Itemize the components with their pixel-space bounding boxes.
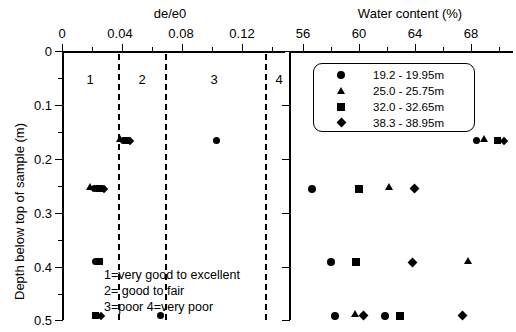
data-point: [327, 258, 335, 266]
right-xminortick-1: [331, 47, 332, 52]
legend-label-3: 38.3 - 38.95m: [373, 117, 444, 129]
right-xtick-3: 68: [457, 26, 485, 41]
right-ytick-mark-3: [282, 213, 290, 214]
zone-label-2: 2: [134, 72, 150, 87]
left-yminortick-2: [58, 186, 63, 187]
right-ytick-mark-4: [282, 267, 290, 268]
left-ytick-label-0: 0: [14, 44, 52, 59]
legend-marker-circle: [337, 71, 345, 79]
left-ytick-mark-0: [55, 51, 63, 52]
left-x-axis: [62, 51, 285, 53]
legend-label-1: 25.0 - 25.75m: [373, 85, 444, 97]
legend-label-2: 32.0 - 32.65m: [373, 101, 444, 113]
right-y-axis: [289, 51, 291, 320]
data-point: [458, 311, 468, 321]
left-xtick-mark-1: [122, 44, 123, 52]
left-xtick-1: 0.04: [100, 26, 140, 41]
left-ytick-label-1: 0.1: [14, 98, 52, 113]
left-ytick-mark-4: [55, 267, 63, 268]
data-point: [359, 311, 369, 321]
right-x-axis: [289, 51, 513, 53]
right-xminortick-2: [387, 47, 388, 52]
left-ytick-mark-2: [55, 159, 63, 160]
data-point: [396, 312, 404, 320]
data-point: [464, 257, 472, 264]
left-xtick-0: 0: [50, 26, 74, 41]
data-point: [500, 137, 508, 145]
left-xminortick-3: [212, 47, 213, 52]
right-axis-title: Water content (%): [330, 6, 490, 21]
left-ytick-mark-1: [55, 105, 63, 106]
right-ytick-mark-5: [282, 320, 290, 321]
data-point: [331, 312, 339, 320]
left-ytick-label-5: 0.5: [14, 313, 52, 328]
right-xminortick-3: [443, 47, 444, 52]
zone-legend-note-1: 1=very good to excellent: [104, 268, 240, 282]
data-point: [352, 258, 360, 266]
data-point: [410, 184, 420, 194]
zone-label-3: 3: [206, 72, 222, 87]
legend-marker-diamond: [337, 118, 347, 128]
left-y-axis-title: Depth below top of sample (m): [12, 123, 27, 300]
right-xtick-mark-2: [415, 44, 416, 52]
left-axis-title: de/e0: [110, 6, 230, 21]
left-xtick-mark-2: [182, 44, 183, 52]
data-point: [351, 310, 359, 317]
zone-label-1: 1: [82, 72, 98, 87]
data-point: [308, 185, 316, 193]
legend-marker-square: [337, 103, 345, 111]
zone-label-4: 4: [271, 72, 287, 87]
data-point: [381, 312, 389, 320]
zone-boundary-3: [265, 54, 267, 320]
right-xtick-mark-1: [359, 44, 360, 52]
left-ytick-mark-3: [55, 213, 63, 214]
data-point: [213, 137, 220, 144]
left-xtick-3: 0.12: [222, 26, 262, 41]
legend-label-0: 19.2 - 19.95m: [373, 69, 444, 81]
left-xtick-mark-3: [242, 44, 243, 52]
left-xminortick-2: [152, 47, 153, 52]
data-point: [355, 185, 363, 193]
left-yminortick-0: [58, 78, 63, 79]
right-ytick-mark-2: [282, 159, 290, 160]
data-point: [385, 183, 393, 190]
left-ytick-mark-5: [55, 320, 63, 321]
right-xtick-1: 60: [345, 26, 373, 41]
left-xminortick-1: [92, 47, 93, 52]
zone-legend-note-3: 3=poor 4=very poor: [104, 300, 213, 314]
figure-canvas: de/e0 0 0.04 0.08 0.12 0 0.1 0.2 0.3 0.4…: [0, 0, 516, 332]
left-xminortick-4: [272, 47, 273, 52]
right-xtick-mark-3: [471, 44, 472, 52]
right-xtick-0: 56: [289, 26, 317, 41]
legend-marker-triangle: [337, 87, 345, 94]
data-point: [408, 258, 418, 268]
zone-legend-note-2: 2= good to fair: [104, 284, 184, 298]
left-yminortick-1: [58, 132, 63, 133]
left-yminortick-4: [58, 294, 63, 295]
left-xtick-2: 0.08: [161, 26, 201, 41]
data-point: [480, 135, 488, 142]
data-point: [86, 183, 94, 190]
legend: 19.2 - 19.95m 25.0 - 25.75m 32.0 - 32.65…: [313, 63, 475, 132]
left-yminortick-3: [58, 240, 63, 241]
right-ytick-mark-1: [282, 105, 290, 106]
right-ytick-mark-0: [282, 51, 290, 52]
right-xtick-2: 64: [401, 26, 429, 41]
data-point: [96, 258, 103, 265]
right-xminortick-4: [499, 47, 500, 52]
data-point: [473, 137, 480, 144]
right-xtick-mark-0: [303, 44, 304, 52]
